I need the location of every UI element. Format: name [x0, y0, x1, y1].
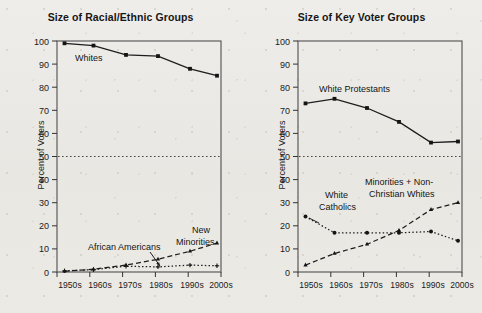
- annotation-catholics: Catholics: [319, 202, 357, 212]
- ytick-60: 60: [280, 129, 290, 139]
- plot-area-right: 100 90 80 70 60 50 40 30 20 10 0: [241, 0, 482, 313]
- chart-svg-right: 100 90 80 70 60 50 40 30 20 10 0: [241, 0, 482, 313]
- panel-racial-ethnic-groups: Size of Racial/Ethnic Groups Percent of …: [0, 0, 241, 313]
- annotation-new: New: [192, 225, 211, 235]
- series-line-white-catholics: [306, 217, 459, 241]
- ytick-30: 30: [39, 198, 49, 208]
- ytick-20: 20: [39, 221, 49, 231]
- ytick-40: 40: [39, 175, 49, 185]
- xtick-1960s: 1960s: [88, 280, 111, 290]
- series-line-white-protestants: [306, 99, 459, 143]
- xtick-2000s: 2000s: [209, 280, 232, 290]
- xtick-1980s: 1980s: [390, 280, 413, 290]
- annotation-minorities: Minorities: [176, 237, 215, 247]
- ytick-50: 50: [280, 152, 290, 162]
- annotation-white: White: [325, 190, 348, 200]
- chart-svg-left: 100 90 80 70 60 50 40 30 20 10 0: [0, 0, 241, 313]
- annotation-white-protestants: White Protestants: [319, 84, 391, 94]
- y-axis-tick-labels-right: 100 90 80 70 60 50 40 30 20 10 0: [275, 37, 290, 278]
- x-axis-tick-labels-left: 1950s 1960s 1970s 1980s 1990s 2000s: [58, 280, 232, 290]
- xtick-1990s: 1990s: [180, 280, 203, 290]
- x-axis-ticks-left: [57, 272, 221, 277]
- x-axis-ticks-right: [298, 272, 462, 277]
- ytick-40: 40: [280, 175, 290, 185]
- xtick-1990s: 1990s: [421, 280, 444, 290]
- xtick-1950s: 1950s: [58, 280, 81, 290]
- ytick-70: 70: [39, 106, 49, 116]
- ytick-10: 10: [39, 244, 49, 254]
- xtick-1960s: 1960s: [329, 280, 352, 290]
- xtick-1980s: 1980s: [149, 280, 172, 290]
- ytick-60: 60: [39, 129, 49, 139]
- ytick-10: 10: [280, 244, 290, 254]
- series-markers-white-protestants: [304, 97, 460, 145]
- ytick-70: 70: [280, 106, 290, 116]
- ytick-100: 100: [275, 37, 290, 47]
- xtick-2000s: 2000s: [450, 280, 473, 290]
- annotation-minorities-nonchristian-1: Minorities + Non-: [365, 177, 433, 187]
- chart-panels: Size of Racial/Ethnic Groups Percent of …: [0, 0, 482, 313]
- xtick-1970s: 1970s: [118, 280, 141, 290]
- leader-line-white-catholics: [309, 218, 319, 223]
- ytick-20: 20: [280, 221, 290, 231]
- ytick-0: 0: [44, 268, 49, 278]
- xtick-1970s: 1970s: [359, 280, 382, 290]
- series-line-african-americans: [65, 265, 218, 271]
- plot-area-left: 100 90 80 70 60 50 40 30 20 10 0: [0, 0, 241, 313]
- y-axis-ticks-right: [293, 41, 298, 272]
- x-axis-tick-labels-right: 1950s 1960s 1970s 1980s 1990s 2000s: [299, 280, 473, 290]
- series-line-minorities-nonchristian: [306, 203, 459, 265]
- annotation-african-americans: African Americans: [88, 242, 161, 252]
- annotation-whites: Whites: [75, 53, 103, 63]
- annotation-minorities-nonchristian-2: Christian Whites: [369, 189, 435, 199]
- ytick-90: 90: [280, 60, 290, 70]
- ytick-30: 30: [280, 198, 290, 208]
- ytick-100: 100: [34, 37, 49, 47]
- panel-key-voter-groups: Size of Key Voter Groups Percent of Vote…: [241, 0, 482, 313]
- ytick-90: 90: [39, 60, 49, 70]
- y-axis-ticks-left: [52, 41, 57, 272]
- ytick-80: 80: [280, 83, 290, 93]
- y-axis-tick-labels-left: 100 90 80 70 60 50 40 30 20 10 0: [34, 37, 49, 278]
- ytick-0: 0: [285, 268, 290, 278]
- ytick-80: 80: [39, 83, 49, 93]
- xtick-1950s: 1950s: [299, 280, 322, 290]
- ytick-50: 50: [39, 152, 49, 162]
